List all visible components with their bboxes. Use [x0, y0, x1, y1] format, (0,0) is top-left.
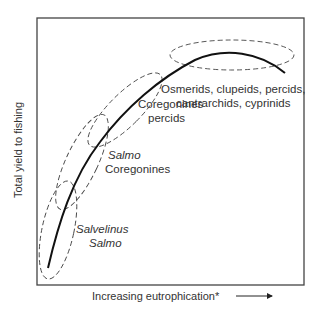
zone-label-2a: Salmo [108, 149, 141, 161]
zone-ellipse-salmo [46, 108, 119, 216]
plot-frame [37, 18, 304, 285]
zone-label-4a: Osmerids, clupeids, percids, [161, 83, 305, 95]
x-axis-label: Increasing eutrophication* [92, 290, 220, 302]
yield-eutrophication-diagram: Salvelinus Salmo Salmo Coregonines Coreg… [0, 0, 320, 310]
zone-label-2b: Coregonines [105, 163, 170, 175]
zone-label-1b: Salmo [89, 237, 122, 249]
zone-label-3b: percids [148, 112, 185, 124]
zone-ellipse-coregonines [78, 63, 171, 156]
y-axis-label: Total yield to fishing [12, 102, 24, 198]
zone-label-1a: Salvelinus [76, 223, 129, 235]
zone-label-4b: cantrarchids, cyprinids [176, 97, 291, 109]
